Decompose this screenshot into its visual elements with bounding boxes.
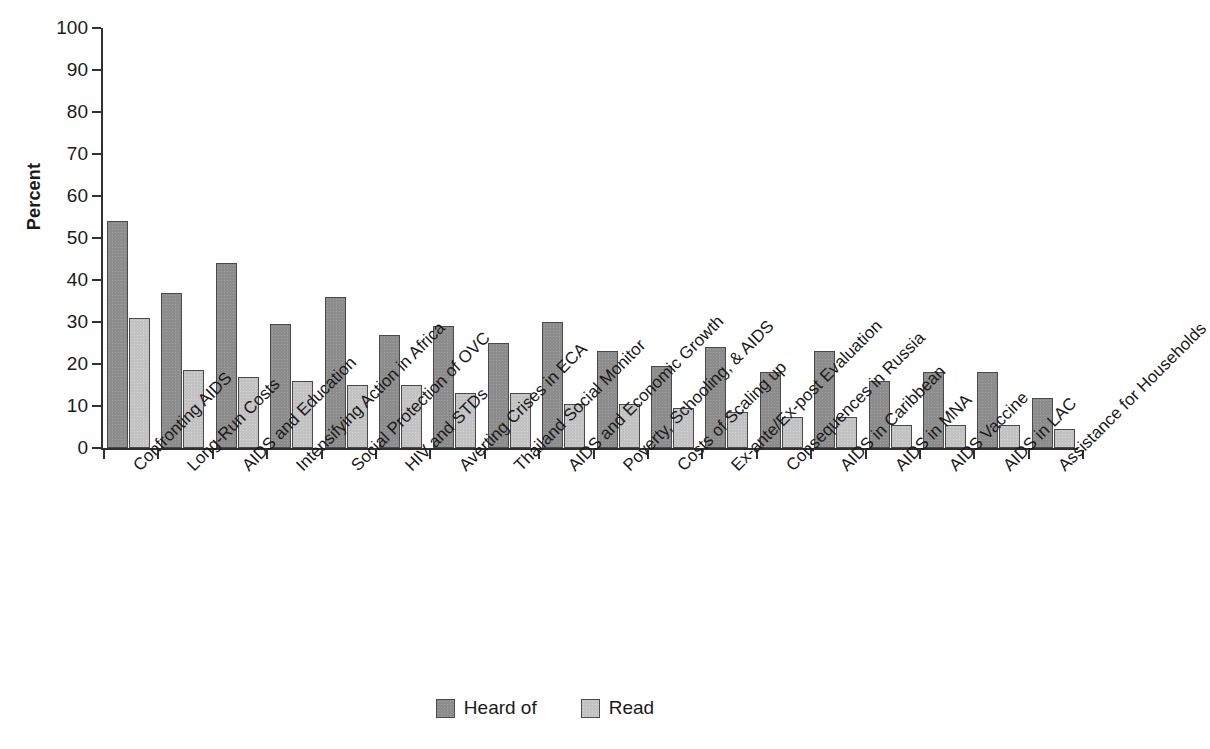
y-axis-line (101, 28, 103, 449)
y-axis-tick-label: 0 (42, 438, 88, 457)
y-axis-tick-mark (92, 27, 101, 29)
y-axis-tick-label: 80 (42, 102, 88, 121)
y-axis-tick-mark (92, 447, 101, 449)
y-axis-tick-mark (92, 321, 101, 323)
y-axis-tick-label: 20 (42, 354, 88, 373)
chart-legend: Heard ofRead (0, 697, 1090, 719)
y-axis-tick-label: 90 (42, 60, 88, 79)
y-axis-tick-mark (92, 237, 101, 239)
y-axis-tick-label: 30 (42, 312, 88, 331)
legend-swatch-read (581, 699, 600, 718)
y-axis-tick-label: 10 (42, 396, 88, 415)
y-axis-tick-label: 50 (42, 228, 88, 247)
y-axis-tick-mark (92, 363, 101, 365)
bar-heard (107, 221, 128, 448)
y-axis-tick-label: 70 (42, 144, 88, 163)
y-axis-tick-mark (92, 279, 101, 281)
y-axis-tick-mark (92, 405, 101, 407)
legend-label: Heard of (464, 697, 537, 719)
legend-swatch-heard (436, 699, 455, 718)
y-axis-tick-mark (92, 153, 101, 155)
legend-item[interactable]: Read (581, 697, 654, 719)
y-axis-tick-mark (92, 69, 101, 71)
x-axis-category-label: Assistance for Households (1055, 320, 1210, 475)
x-axis-tick-mark (103, 450, 105, 459)
legend-label: Read (609, 697, 654, 719)
y-axis-tick-mark (92, 195, 101, 197)
bar-read (129, 318, 150, 448)
y-axis-tick-label: 40 (42, 270, 88, 289)
y-axis-tick-label: 60 (42, 186, 88, 205)
legend-item[interactable]: Heard of (436, 697, 537, 719)
y-axis-tick-label: 100 (42, 18, 88, 37)
y-axis-tick-mark (92, 111, 101, 113)
